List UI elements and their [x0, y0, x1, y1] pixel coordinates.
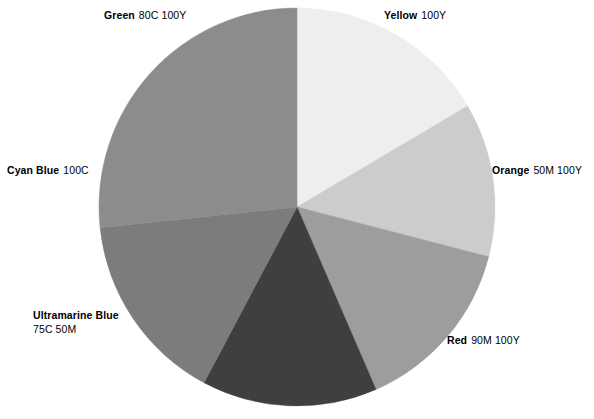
slice-label-ultramarine-blue: Ultramarine Blue 75C 50M	[33, 309, 119, 336]
slice-label-ultramarine-blue-spec: 75C 50M	[33, 323, 119, 337]
slice-label-orange-spec: 50M 100Y	[533, 164, 582, 176]
slice-label-cyan-blue-spec: 100C	[63, 164, 89, 176]
slice-label-red-spec: 90M 100Y	[471, 334, 520, 346]
pie-chart-graphic	[0, 0, 594, 419]
slice-label-orange-name: Orange	[492, 164, 529, 176]
slice-label-cyan-blue: Cyan Blue100C	[7, 164, 89, 178]
pie-chart-figure: Green80C 100Y Yellow100Y Orange50M 100Y …	[0, 0, 594, 419]
slice-label-red: Red90M 100Y	[447, 334, 520, 348]
slice-label-orange: Orange50M 100Y	[492, 164, 582, 178]
slice-label-red-name: Red	[447, 334, 467, 346]
slice-label-cyan-blue-name: Cyan Blue	[7, 164, 59, 176]
slice-label-yellow-spec: 100Y	[421, 9, 446, 21]
pie-slice-green[interactable]	[99, 8, 297, 228]
slice-label-green: Green80C 100Y	[104, 9, 186, 23]
slice-label-green-spec: 80C 100Y	[139, 9, 187, 21]
slice-label-yellow: Yellow100Y	[384, 9, 446, 23]
slice-label-green-name: Green	[104, 9, 135, 21]
slice-label-ultramarine-blue-name: Ultramarine Blue	[33, 309, 119, 321]
slice-label-yellow-name: Yellow	[384, 9, 417, 21]
